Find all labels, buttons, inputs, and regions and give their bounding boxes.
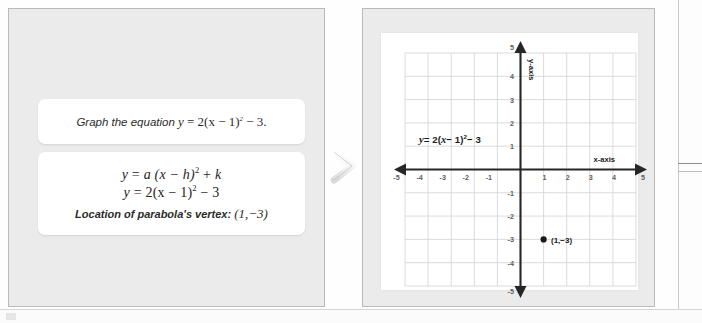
xtick--2: -2	[463, 173, 469, 182]
graph-eqn-mid: − 1)	[446, 134, 463, 145]
general-form-k: k	[215, 167, 221, 182]
xtick--4: -4	[416, 173, 422, 182]
general-form-body: a (x − h)	[144, 167, 195, 182]
work-callout: y = a (x − h)2 + k y = 2(x − 1)2 − 3 Loc…	[38, 152, 305, 235]
prompt-lead: Graph the equation	[76, 116, 174, 128]
ytick-3: 3	[510, 96, 514, 105]
axis-lines	[397, 44, 644, 295]
ytick--5: -5	[508, 287, 514, 296]
graph-eqn-equals: = 2(	[424, 134, 441, 145]
specific-tail: − 3	[200, 185, 219, 200]
ytick--3: -3	[508, 235, 514, 244]
general-form-lhs: y	[122, 167, 128, 182]
specific-exponent: 2	[192, 183, 196, 193]
ytick--1: -1	[508, 189, 514, 198]
graph-eqn-tail: − 3	[467, 134, 481, 145]
prompt-eq-y: y	[178, 114, 184, 129]
xtick-1: 1	[543, 173, 547, 182]
xtick-4: 4	[612, 173, 616, 182]
prompt-eq-body: 2(x − 1)	[198, 114, 240, 129]
general-form-equation: y = a (x − h)2 + k	[122, 165, 222, 183]
xtick--5: -5	[393, 173, 399, 182]
bottom-strip	[0, 309, 702, 323]
bottom-separator	[0, 309, 702, 310]
prompt-text: Graph the equation y = 2(x − 1)2 − 3.	[76, 114, 266, 130]
prompt-callout: Graph the equation y = 2(x − 1)2 − 3.	[38, 99, 305, 144]
xtick--1: -1	[486, 173, 492, 182]
coordinate-plane: -5 -4 -3 -2 -1 1 2 3 4 5 5 4	[405, 53, 636, 286]
prompt-eq-tail: − 3.	[246, 114, 266, 129]
xtick--3: -3	[439, 173, 445, 182]
xtick-2: 2	[566, 173, 570, 182]
next-slide-sliver	[678, 0, 702, 323]
right-panel: -5 -4 -3 -2 -1 1 2 3 4 5 5 4	[362, 8, 655, 307]
ytick--4: -4	[508, 259, 514, 268]
vertex-point-label: (1,−3)	[551, 236, 572, 245]
vertex-label: Location of parabola's vertex:	[75, 208, 231, 220]
ytick-1: 1	[510, 142, 514, 151]
x-axis-label: x-axis	[593, 155, 615, 164]
sliver-rule-b	[678, 171, 702, 172]
graph-equation-annotation: y= 2(x− 1)2− 3	[419, 133, 481, 145]
ytick-2: 2	[510, 119, 514, 128]
prompt-eq-equals: =	[187, 114, 194, 129]
chevron-right-icon	[330, 148, 360, 184]
left-panel: Graph the equation y = 2(x − 1)2 − 3. y …	[8, 8, 325, 307]
slide-canvas: Graph the equation y = 2(x − 1)2 − 3. y …	[0, 0, 702, 323]
graph-card: -5 -4 -3 -2 -1 1 2 3 4 5 5 4	[381, 33, 638, 290]
xtick-3: 3	[589, 173, 593, 182]
general-form-exponent: 2	[195, 165, 199, 175]
vertex-value: (1,−3)	[234, 206, 268, 221]
ytick--2: -2	[508, 212, 514, 221]
specific-lhs: y	[124, 185, 130, 200]
specific-equation: y = 2(x − 1)2 − 3	[124, 183, 220, 201]
general-form-tail-op: +	[203, 167, 211, 182]
vertex-statement: Location of parabola's vertex: (1,−3)	[75, 206, 268, 222]
general-form-equals: =	[132, 167, 140, 182]
xtick-5: 5	[641, 173, 645, 182]
prompt-eq-exponent: 2	[240, 115, 244, 123]
sliver-vertical-rule	[678, 0, 679, 323]
x-axis-tick-labels: -5 -4 -3 -2 -1 1 2 3 4 5	[393, 173, 645, 182]
bottom-left-mark-icon	[6, 313, 16, 320]
sliver-rule-a	[678, 163, 702, 164]
specific-body: 2(x − 1)	[145, 185, 192, 200]
specific-equals: =	[134, 185, 142, 200]
ytick-5: 5	[510, 43, 514, 52]
vertex-point-marker	[541, 236, 547, 242]
ytick-4: 4	[510, 72, 514, 81]
y-axis-label: y-axis	[527, 59, 536, 81]
